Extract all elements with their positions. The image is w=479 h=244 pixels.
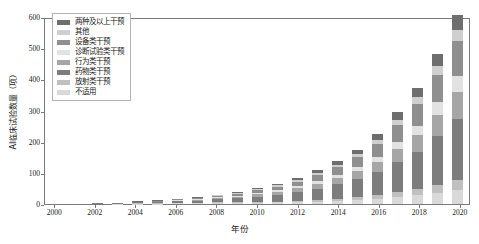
bar-segment: [92, 203, 103, 204]
legend-item: 不适用: [57, 87, 124, 97]
bar-column: [272, 184, 283, 204]
y-tick-label: 300: [4, 108, 40, 116]
bar-column: [292, 178, 303, 204]
bar-segment: [172, 203, 183, 204]
bar-segment: [412, 152, 423, 189]
bar-column: [152, 200, 163, 204]
bar-column: [332, 161, 343, 204]
legend-item: 放射类干预: [57, 77, 124, 87]
x-tick-label: 2000: [47, 209, 62, 217]
legend-swatch-icon: [57, 90, 70, 95]
bar-segment: [452, 41, 463, 76]
legend-item-label: 设备类干预: [75, 38, 110, 46]
bar-column: [452, 15, 463, 204]
x-tick-label: 2006: [168, 209, 183, 217]
x-tick-label: 2008: [209, 209, 224, 217]
x-tick-label: 2020: [452, 209, 467, 217]
bar-segment: [372, 144, 383, 157]
bar-column: [92, 203, 103, 204]
y-tick-label: 100: [4, 170, 40, 178]
bar-segment: [432, 193, 443, 204]
y-tick-label: 0: [4, 201, 40, 209]
bar-segment: [372, 162, 383, 172]
legend-item: 行为类干预: [57, 57, 124, 67]
bar-segment: [392, 197, 403, 204]
bar-column: [372, 134, 383, 204]
bar-segment: [332, 167, 343, 175]
y-tick-mark: [41, 143, 44, 144]
x-tick-mark: [95, 205, 96, 208]
x-tick-label: 2012: [290, 209, 305, 217]
bar-column: [232, 192, 243, 204]
bar-segment: [252, 203, 263, 204]
x-tick-mark: [298, 205, 299, 208]
bar-segment: [392, 142, 403, 149]
x-tick-mark: [176, 205, 177, 208]
legend-item-label: 药物类干预: [75, 68, 110, 76]
bar-segment: [432, 66, 443, 75]
bar-segment: [232, 203, 243, 204]
legend-item-label: 不适用: [75, 88, 96, 96]
y-tick-mark: [41, 174, 44, 175]
bar-segment: [352, 200, 363, 204]
y-tick-label: 400: [4, 76, 40, 84]
legend-swatch-icon: [57, 40, 70, 45]
y-tick-mark: [41, 112, 44, 113]
legend-item-label: 放射类干预: [75, 78, 110, 86]
bar-column: [192, 197, 203, 204]
bar-column: [392, 112, 403, 204]
legend-item-label: 其他: [75, 28, 89, 36]
bar-segment: [352, 157, 363, 167]
y-tick-mark: [41, 80, 44, 81]
bar-segment: [332, 184, 343, 198]
x-tick-label: 2010: [250, 209, 265, 217]
bar-segment: [332, 201, 343, 204]
bar-segment: [292, 202, 303, 204]
bar-segment: [392, 125, 403, 142]
bar-segment: [432, 115, 443, 137]
bar-segment: [392, 162, 403, 192]
bar-segment: [312, 189, 323, 200]
legend-item-label: 行为类干预: [75, 58, 110, 66]
bar-column: [172, 199, 183, 204]
bar-segment: [412, 195, 423, 204]
legend-item: 诊断试验类干预: [57, 47, 124, 57]
bar-segment: [452, 119, 463, 180]
bar-segment: [192, 203, 203, 204]
bar-segment: [412, 97, 423, 104]
x-tick-mark: [216, 205, 217, 208]
bar-segment: [272, 195, 283, 202]
x-tick-mark: [338, 205, 339, 208]
bar-segment: [432, 136, 443, 184]
bar-segment: [372, 199, 383, 204]
bar-column: [312, 170, 323, 204]
x-tick-mark: [419, 205, 420, 208]
bar-segment: [432, 54, 443, 66]
legend-swatch-icon: [57, 20, 70, 25]
bar-segment: [432, 75, 443, 102]
legend-item: 其他: [57, 27, 124, 37]
bar-segment: [292, 192, 303, 201]
bar-column: [352, 150, 363, 205]
bar-column: [412, 88, 423, 204]
bar-column: [112, 203, 123, 205]
y-tick-mark: [41, 49, 44, 50]
legend-swatch-icon: [57, 60, 70, 65]
legend-item-label: 两种及以上干预: [75, 18, 124, 26]
x-tick-label: 2016: [371, 209, 386, 217]
bar-segment: [452, 30, 463, 41]
bar-column: [432, 54, 443, 204]
bar-segment: [412, 135, 423, 152]
legend-swatch-icon: [57, 80, 70, 85]
bar-segment: [452, 15, 463, 31]
x-tick-label: 2018: [412, 209, 427, 217]
bar-segment: [312, 202, 323, 204]
legend-item: 设备类干预: [57, 37, 124, 47]
bar-segment: [452, 180, 463, 190]
legend-item: 两种及以上干预: [57, 17, 124, 27]
y-tick-label: 600: [4, 14, 40, 22]
x-tick-mark: [257, 205, 258, 208]
bar-segment: [352, 171, 363, 179]
legend-swatch-icon: [57, 50, 70, 55]
x-tick-label: 2002: [87, 209, 102, 217]
